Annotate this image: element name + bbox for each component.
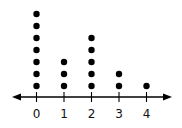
data-dot: [33, 83, 39, 89]
data-dot: [33, 35, 39, 41]
tick-label: 0: [33, 107, 41, 121]
data-dot: [88, 35, 94, 41]
data-dot: [88, 47, 94, 53]
left-arrow-icon: [12, 94, 21, 101]
dot-plot: 01234: [0, 0, 182, 128]
right-arrow-icon: [163, 94, 172, 101]
tick-label: 2: [88, 107, 96, 121]
data-dot: [61, 59, 67, 65]
data-dot: [61, 71, 67, 77]
tick-label: 1: [60, 107, 68, 121]
data-dot: [33, 23, 39, 29]
data-dot: [88, 83, 94, 89]
tick-label: 3: [115, 107, 123, 121]
tick-labels-group: 01234: [33, 107, 151, 121]
data-dot: [88, 59, 94, 65]
tick-label: 4: [143, 107, 151, 121]
data-dot: [116, 83, 122, 89]
data-dot: [33, 71, 39, 77]
dots-group: [33, 11, 149, 89]
data-dot: [33, 59, 39, 65]
data-dot: [88, 71, 94, 77]
data-dot: [33, 11, 39, 17]
data-dot: [61, 83, 67, 89]
data-dot: [33, 47, 39, 53]
data-dot: [143, 83, 149, 89]
data-dot: [116, 71, 122, 77]
